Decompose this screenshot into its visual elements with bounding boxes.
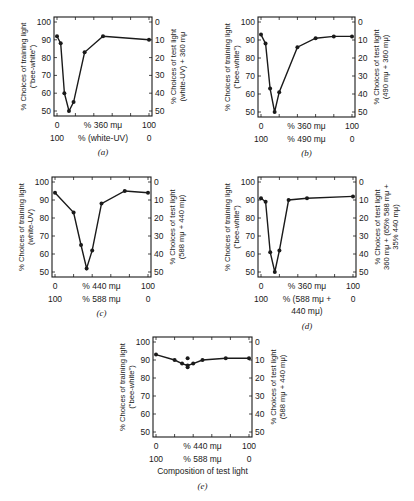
x-tick-label-bottom: 100 <box>254 134 268 144</box>
x-tick-label-top: % 360 mμ <box>288 281 327 291</box>
y-axis-label-right: % Choices of test light <box>169 28 178 104</box>
y-axis-label-right: % Choices of test light <box>269 349 278 425</box>
panel-label: (e) <box>198 481 208 491</box>
y-tick-right: 40 <box>154 249 164 259</box>
y-axis-label-right: % Choices of test light <box>168 189 177 265</box>
x-tick-label-bottom: 0 <box>146 294 151 304</box>
data-point <box>273 110 277 114</box>
data-point <box>259 33 263 37</box>
y-tick-left: 100 <box>37 17 51 27</box>
x-tick-label-bottom: % 490 mμ <box>287 134 326 144</box>
y-axis-label-left: % Choices of training light <box>118 342 127 431</box>
data-point <box>268 250 272 254</box>
y-tick-left: 70 <box>246 231 256 241</box>
chart-panel-b: 100908070605001020304050% Choices of tra… <box>223 17 390 158</box>
y-tick-left: 50 <box>40 267 50 277</box>
y-tick-left: 50 <box>141 427 151 437</box>
y-tick-right: 30 <box>359 231 369 241</box>
data-point <box>123 189 127 193</box>
data-point <box>351 194 355 198</box>
y-tick-left: 100 <box>241 177 255 187</box>
data-point <box>154 353 158 357</box>
y-tick-right: 0 <box>359 177 364 187</box>
y-axis-label-left: (white-UV) <box>26 209 35 245</box>
data-point <box>277 248 281 252</box>
y-tick-left: 70 <box>141 391 151 401</box>
y-tick-left: 50 <box>42 106 52 116</box>
data-point <box>201 358 205 362</box>
x-tick-label-top: 100 <box>345 121 359 131</box>
data-line <box>57 36 149 111</box>
x-tick-label-bottom: 0 <box>351 294 356 304</box>
data-point <box>268 87 272 91</box>
y-tick-left: 60 <box>246 249 256 259</box>
x-tick-label-top: 100 <box>142 120 156 130</box>
data-point <box>173 358 177 362</box>
y-tick-right: 0 <box>255 337 260 347</box>
panel-label: (a) <box>98 147 109 157</box>
y-tick-left: 50 <box>246 267 256 277</box>
data-point <box>147 38 151 42</box>
y-axis-label-right: (588 mμ + 440 mμ) <box>278 354 287 419</box>
y-tick-right: 0 <box>155 17 160 27</box>
y-tick-left: 90 <box>246 35 256 45</box>
y-tick-right: 30 <box>154 231 164 241</box>
y-tick-right: 40 <box>255 409 265 419</box>
panel-label: (d) <box>302 321 313 331</box>
data-point <box>72 100 76 104</box>
y-tick-right: 10 <box>255 355 265 365</box>
y-tick-left: 60 <box>246 89 256 99</box>
y-tick-right: 40 <box>359 249 369 259</box>
y-tick-right: 20 <box>359 213 369 223</box>
x-tick-label-bottom: 0 <box>147 133 152 143</box>
data-point <box>100 202 104 206</box>
y-tick-right: 10 <box>155 35 165 45</box>
x-tick-label-top: % 360 mμ <box>287 121 326 131</box>
panel-label: (c) <box>97 308 107 318</box>
y-tick-left: 80 <box>141 373 151 383</box>
x-tick-label-top: 100 <box>242 441 256 451</box>
data-point <box>314 36 318 40</box>
data-point-extra <box>186 365 190 369</box>
data-point <box>55 34 59 38</box>
data-point <box>295 45 299 49</box>
y-tick-right: 40 <box>155 88 165 98</box>
data-point <box>277 90 281 94</box>
y-tick-left: 60 <box>141 409 151 419</box>
x-tick-label-top: % 440 mμ <box>183 441 222 451</box>
y-tick-right: 10 <box>358 35 368 45</box>
y-tick-left: 80 <box>246 53 256 63</box>
y-tick-left: 90 <box>141 355 151 365</box>
data-line <box>261 196 353 272</box>
x-tick-label-top: 100 <box>346 281 360 291</box>
y-tick-left: 80 <box>42 53 52 63</box>
x-tick-label-top: % 440 mμ <box>82 281 121 291</box>
x-axis-label: Composition of test light <box>157 466 248 476</box>
data-line <box>261 35 352 112</box>
data-point <box>191 362 195 366</box>
x-tick-label-bottom: 100 <box>149 454 163 464</box>
chart-panel-d: 100908070605001020304050% Choices of tra… <box>223 177 400 331</box>
y-tick-left: 80 <box>40 213 50 223</box>
data-point <box>72 211 76 215</box>
data-point <box>247 356 251 360</box>
y-tick-left: 100 <box>136 337 150 347</box>
data-point-extra <box>186 356 190 360</box>
y-tick-right: 20 <box>154 213 164 223</box>
data-point <box>180 362 184 366</box>
data-point <box>79 243 83 247</box>
y-tick-right: 50 <box>359 267 369 277</box>
x-tick-label-bottom: % 588 mμ <box>183 454 222 464</box>
y-axis-label-left: % Choices of training light <box>19 22 28 111</box>
y-axis-label-right: % Choices of test light <box>372 29 381 105</box>
y-axis-label-left: ("bee-white") <box>28 44 37 88</box>
y-tick-right: 50 <box>255 427 265 437</box>
x-tick-label-bottom: % 588 mμ <box>82 294 121 304</box>
y-tick-left: 70 <box>246 71 256 81</box>
data-point <box>350 34 354 38</box>
y-axis-label-right: (490 mμ + 360 mμ) <box>381 34 390 99</box>
y-axis-label-left: ("bee-white") <box>232 205 241 249</box>
plot-frame <box>54 17 152 116</box>
x-tick-label-bottom: % (white-UV) <box>78 133 128 143</box>
y-tick-right: 0 <box>154 177 159 187</box>
